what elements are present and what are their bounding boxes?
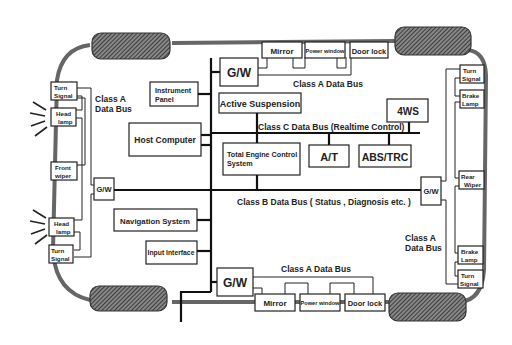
tire-front-right: [395, 27, 471, 55]
svg-text:Brake: Brake: [462, 92, 480, 99]
class-a-bus-top-label: Class A Data Bus: [293, 79, 363, 89]
class-a-bus-right-label-1: Class A: [405, 233, 436, 243]
svg-text:Mirror: Mirror: [263, 299, 286, 308]
svg-text:Total Engine Control: Total Engine Control: [227, 150, 297, 159]
svg-text:Wiper: Wiper: [464, 181, 482, 188]
class-c-bus-label: Class C Data Bus (Realtime Control): [258, 122, 405, 132]
svg-text:lamp: lamp: [58, 118, 73, 125]
svg-text:Turn: Turn: [463, 67, 477, 74]
svg-text:G/W: G/W: [97, 185, 113, 194]
svg-text:wiper: wiper: [54, 172, 72, 179]
svg-text:Rear: Rear: [461, 173, 475, 180]
svg-text:Lamp: Lamp: [462, 100, 479, 107]
svg-text:Head: Head: [56, 110, 71, 117]
backbone-tail: [181, 292, 211, 322]
svg-text:Turn: Turn: [54, 84, 68, 91]
svg-text:Active Suspension: Active Suspension: [220, 99, 301, 109]
svg-text:Door lock: Door lock: [352, 47, 387, 56]
tire-front-left: [92, 33, 170, 59]
headlamp-rays-top-icon: [30, 102, 47, 136]
svg-text:Mirror: Mirror: [270, 47, 293, 56]
class-a-bus-bottom-label: Class A Data Bus: [281, 264, 351, 274]
tire-rear-right: [389, 293, 466, 321]
svg-text:Host Computer: Host Computer: [134, 135, 196, 145]
svg-text:Signal: Signal: [460, 280, 479, 287]
svg-text:Signal: Signal: [51, 255, 70, 262]
svg-text:Brake: Brake: [461, 248, 479, 255]
class-a-bus-left-label-2: Data Bus: [95, 104, 132, 114]
svg-text:Power window: Power window: [301, 300, 340, 306]
svg-text:Signal: Signal: [462, 75, 481, 82]
headlamp-rays-bottom-icon: [30, 210, 47, 244]
svg-text:G/W: G/W: [223, 276, 248, 290]
svg-text:Input Interface: Input Interface: [148, 249, 195, 257]
svg-text:G/W: G/W: [424, 187, 440, 196]
svg-text:Signal: Signal: [54, 92, 73, 99]
svg-text:Power window: Power window: [306, 48, 345, 54]
tire-rear-left: [90, 286, 167, 311]
svg-text:Panel: Panel: [155, 96, 174, 103]
class-a-bus-left-label-1: Class A: [95, 94, 126, 104]
svg-text:ABS/TRC: ABS/TRC: [362, 151, 409, 163]
svg-text:lamp: lamp: [56, 228, 71, 235]
class-a-bus-right-label-2: Data Bus: [405, 243, 442, 253]
svg-text:Head: Head: [54, 220, 69, 227]
svg-text:Door lock: Door lock: [348, 299, 383, 308]
svg-text:G/W: G/W: [227, 66, 252, 80]
svg-text:System: System: [227, 159, 253, 168]
svg-text:Turn: Turn: [51, 247, 65, 254]
svg-text:Turn: Turn: [461, 272, 475, 279]
svg-text:Lamp: Lamp: [461, 256, 478, 263]
vehicle-network-diagram: G/W Mirror Power window Door lock Class …: [0, 0, 512, 345]
svg-text:Front: Front: [55, 164, 71, 171]
class-b-bus-label: Class B Data Bus ( Status , Diagnosis et…: [237, 197, 411, 207]
svg-text:Navigation System: Navigation System: [120, 217, 190, 226]
svg-text:Instrument: Instrument: [155, 87, 192, 94]
svg-text:A/T: A/T: [320, 151, 338, 163]
svg-text:4WS: 4WS: [397, 106, 419, 117]
